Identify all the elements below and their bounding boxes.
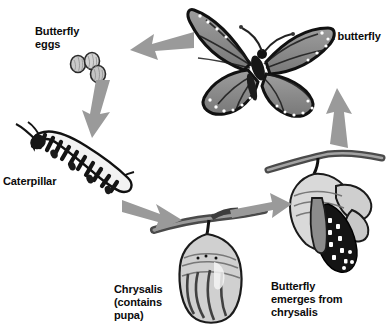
butterfly-life-cycle-diagram: Butterfly eggs Adult butterfly Caterpill… xyxy=(0,0,387,336)
arrow-adult-to-eggs-icon xyxy=(128,30,194,72)
stage-label-butterfly-emerges: Butterfly emerges from chrysalis xyxy=(271,280,343,319)
stage-label-eggs: Butterfly eggs xyxy=(35,25,79,51)
arrow-caterpillar-to-chrysalis-icon xyxy=(122,196,186,238)
monarch-butterfly-icon xyxy=(186,2,338,130)
arrow-chrysalis-to-emerging-icon xyxy=(230,192,292,224)
arrow-eggs-to-caterpillar-icon xyxy=(66,80,114,140)
arrow-emerging-to-adult-icon xyxy=(322,88,356,150)
